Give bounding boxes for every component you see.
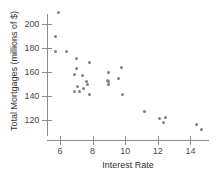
plot-area: 120140160180200 68101214 Total Mortgages… [0, 0, 217, 175]
data-point [75, 57, 78, 60]
data-point [86, 83, 89, 86]
scatter-chart: 120140160180200 68101214 Total Mortgages… [0, 0, 217, 175]
data-point [117, 77, 120, 80]
data-point [54, 50, 57, 53]
data-point [75, 67, 78, 70]
x-axis-title: Interest Rate [47, 160, 209, 170]
data-point [143, 110, 146, 113]
data-point [65, 50, 68, 53]
data-point [88, 61, 91, 64]
data-point [121, 93, 124, 96]
data-point [82, 87, 85, 90]
data-point [73, 90, 76, 93]
data-point [162, 121, 165, 124]
data-point [120, 66, 123, 69]
data-point [78, 90, 81, 93]
data-point [54, 35, 57, 38]
data-point [76, 85, 79, 88]
data-point [107, 83, 110, 86]
data-point [73, 73, 76, 76]
data-point [81, 74, 84, 77]
data-point [164, 116, 167, 119]
data-points-layer [0, 0, 217, 175]
data-point [195, 123, 198, 126]
data-point [158, 117, 161, 120]
data-point [200, 128, 203, 131]
data-point [88, 93, 91, 96]
data-point [57, 11, 60, 14]
data-point [107, 71, 110, 74]
y-axis-title: Total Mortgages (millions of $) [9, 1, 19, 141]
